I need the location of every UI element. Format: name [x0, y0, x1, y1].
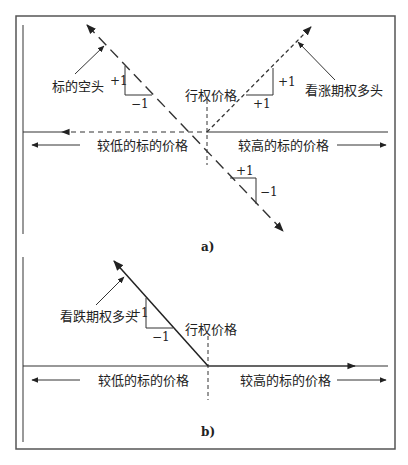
svg-text:+1: +1	[278, 75, 296, 89]
svg-text:+1: +1	[236, 164, 254, 178]
label-lower-price-a: 较低的标的价格	[97, 138, 188, 153]
label-long-call: 看涨期权多头	[305, 83, 383, 98]
svg-text:−1: −1	[131, 97, 149, 111]
caption-a: a)	[201, 240, 214, 254]
payoff-diagram: +1 −1 +1 +1 +1 −1 标的空头 看涨期权多头 行权价格 较低的标的…	[0, 0, 408, 465]
label-strike-a: 行权价格	[185, 88, 237, 103]
short-underlying-line	[87, 25, 283, 231]
label-higher-price-b: 较高的标的价格	[240, 373, 331, 388]
label-higher-price-a: 较高的标的价格	[238, 138, 329, 153]
label-strike-b: 行权价格	[185, 322, 237, 337]
label-lower-price-b: 较低的标的价格	[98, 373, 189, 388]
svg-text:−1: −1	[260, 185, 278, 199]
label-short-underlying: 标的空头	[52, 79, 104, 94]
caption-b: b)	[201, 425, 215, 439]
panel-b: +1 −1 看跌期权多头 行权价格 较低的标的价格 较高的标的价格 b)	[23, 261, 388, 439]
label-long-put: 看跌期权多头	[60, 309, 138, 324]
panel-a: +1 −1 +1 +1 +1 −1 标的空头 看涨期权多头 行权价格 较低的标的…	[23, 25, 388, 254]
svg-text:+1: +1	[253, 97, 271, 111]
svg-text:−1: −1	[152, 330, 170, 344]
svg-text:+1: +1	[110, 74, 128, 88]
